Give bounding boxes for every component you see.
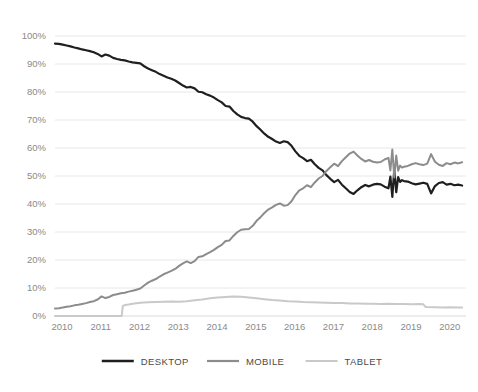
y-axis-tick-labels: 0%10%20%30%40%50%60%70%80%90%100%: [22, 30, 47, 321]
y-tick-label: 70%: [27, 114, 47, 125]
market-share-line-chart: 0%10%20%30%40%50%60%70%80%90%100% 201020…: [0, 0, 478, 392]
series-lines-group: [55, 44, 462, 316]
x-tick-label: 2014: [207, 321, 228, 332]
y-tick-label: 0%: [32, 310, 46, 321]
x-tick-label: 2016: [284, 321, 305, 332]
chart-container: 0%10%20%30%40%50%60%70%80%90%100% 201020…: [0, 0, 478, 392]
y-tick-label: 20%: [27, 254, 47, 265]
x-tick-label: 2017: [323, 321, 344, 332]
x-axis-tick-labels: 2010201120122013201420152016201720182019…: [51, 321, 460, 332]
series-line-tablet: [55, 296, 462, 316]
gridlines-group: [55, 36, 466, 316]
x-tick-label: 2015: [245, 321, 266, 332]
y-tick-label: 80%: [27, 86, 47, 97]
y-tick-label: 100%: [22, 30, 47, 41]
y-tick-label: 40%: [27, 198, 47, 209]
y-tick-label: 90%: [27, 58, 47, 69]
legend-label-desktop[interactable]: DESKTOP: [141, 356, 189, 367]
y-tick-label: 60%: [27, 142, 47, 153]
y-tick-label: 30%: [27, 226, 47, 237]
y-tick-label: 50%: [27, 170, 47, 181]
x-tick-label: 2013: [168, 321, 189, 332]
legend-label-tablet[interactable]: TABLET: [345, 356, 383, 367]
x-tick-label: 2012: [129, 321, 150, 332]
x-tick-label: 2019: [400, 321, 421, 332]
x-tick-label: 2010: [51, 321, 72, 332]
x-tick-label: 2011: [91, 321, 111, 332]
x-tick-label: 2020: [439, 321, 460, 332]
x-tick-label: 2018: [362, 321, 383, 332]
series-line-mobile: [55, 149, 462, 308]
y-tick-label: 10%: [27, 282, 47, 293]
chart-legend: DESKTOPMOBILETABLET: [102, 356, 382, 367]
legend-label-mobile[interactable]: MOBILE: [246, 356, 284, 367]
